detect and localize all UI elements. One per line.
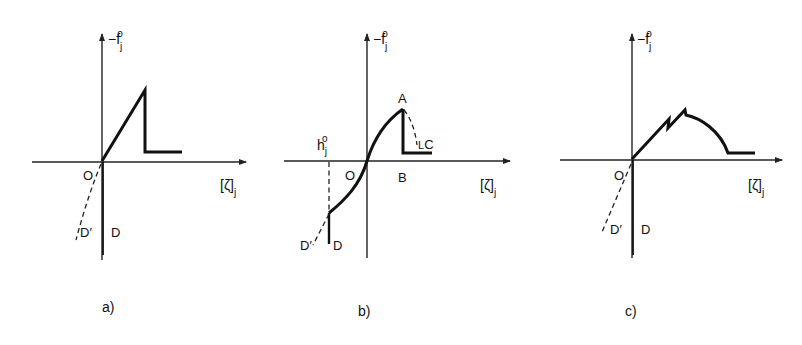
y-axis-label: −fjo <box>637 28 652 52</box>
d-prime-label: D′ <box>300 238 312 253</box>
caption-a: a) <box>102 299 114 315</box>
y-axis-label: −fjo <box>373 28 388 52</box>
origin-label: O <box>83 168 93 183</box>
panel-a: −fjo [ζ]j O D′ D a) <box>32 28 246 315</box>
peak-label-a: A <box>398 91 407 106</box>
caption-c: c) <box>625 303 637 319</box>
d-prime-label: D′ <box>610 222 622 237</box>
dashed-branch-d-prime <box>313 214 329 245</box>
d-label: D <box>333 238 342 253</box>
d-label: D <box>111 225 120 240</box>
point-label-c: LC <box>418 137 434 152</box>
x-axis-label: [ζ]j <box>480 177 496 198</box>
response-curve <box>102 90 182 161</box>
x-axis-label: [ζ]j <box>748 177 764 198</box>
response-curve <box>632 110 755 159</box>
panel-b: −fjo [ζ]j A B LC O hjo D′ D b) <box>284 28 510 319</box>
d-prime-label: D′ <box>80 225 92 240</box>
offset-label-h: hjo <box>317 133 328 157</box>
point-label-b: B <box>398 170 407 185</box>
softening-branch-a-c <box>404 110 417 145</box>
d-label: D <box>641 222 650 237</box>
x-axis-label: [ζ]j <box>220 177 236 198</box>
origin-label: O <box>614 168 624 183</box>
figure-canvas: −fjo [ζ]j O D′ D a) −fjo [ζ]j A B <box>0 0 802 345</box>
origin-label: O <box>345 168 355 183</box>
caption-b: b) <box>358 303 370 319</box>
panel-c: −fjo [ζ]j O D′ D c) <box>560 28 782 319</box>
y-axis-label: −fjo <box>108 28 123 52</box>
